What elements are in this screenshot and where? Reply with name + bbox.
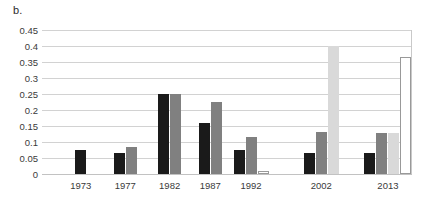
bar [158, 94, 169, 174]
y-tick-label: 0.1 [0, 137, 38, 148]
y-tick-label: 0.15 [0, 121, 38, 132]
bar [170, 94, 181, 174]
gridline [42, 142, 412, 143]
y-tick-label: 0.4 [0, 41, 38, 52]
x-tick-label: 1992 [240, 180, 261, 191]
y-tick-label: 0 [0, 169, 38, 180]
chart-figure: b. 00.050.10.150.20.250.30.350.40.45 197… [0, 0, 422, 204]
x-tick-label: 1987 [200, 180, 221, 191]
gridline [42, 110, 412, 111]
y-tick-label: 0.25 [0, 89, 38, 100]
y-tick-label: 0.45 [0, 25, 38, 36]
gridline [42, 126, 412, 127]
bar [246, 137, 257, 174]
y-tick-label: 0.2 [0, 105, 38, 116]
bar [364, 153, 375, 174]
gridline [42, 46, 412, 47]
gridline [42, 78, 412, 79]
bar [328, 46, 339, 174]
bar [258, 171, 269, 174]
bar [211, 102, 222, 174]
bar [114, 153, 125, 174]
panel-label: b. [13, 4, 23, 16]
bar [126, 147, 137, 174]
x-tick-label: 1982 [159, 180, 180, 191]
x-tick-label: 2002 [311, 180, 332, 191]
x-tick-label: 1977 [115, 180, 136, 191]
gridline [42, 30, 412, 31]
y-tick-label: 0.05 [0, 153, 38, 164]
bar [316, 132, 327, 174]
plot-area [42, 30, 412, 174]
bar [388, 133, 399, 174]
bar [400, 57, 411, 174]
bar [75, 150, 86, 174]
gridline [42, 158, 412, 159]
y-tick-label: 0.35 [0, 57, 38, 68]
bar [376, 133, 387, 174]
bar [234, 150, 245, 174]
bar [304, 153, 315, 174]
x-tick-label: 1973 [70, 180, 91, 191]
y-tick-label: 0.3 [0, 73, 38, 84]
gridline [42, 94, 412, 95]
gridline [42, 174, 412, 175]
gridline [42, 62, 412, 63]
x-tick-label: 2013 [377, 180, 398, 191]
bar [199, 123, 210, 174]
